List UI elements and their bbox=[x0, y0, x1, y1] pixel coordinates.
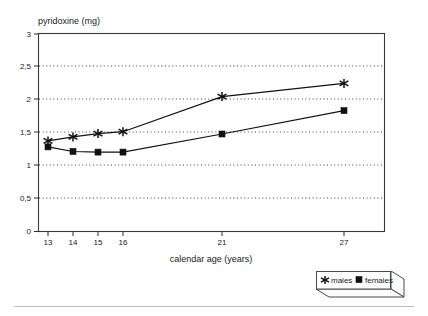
series-males bbox=[44, 79, 349, 145]
footer-divider bbox=[14, 306, 414, 307]
legend-label-females: females bbox=[365, 276, 393, 285]
marker-females-16 bbox=[120, 149, 126, 155]
series-females-line bbox=[48, 111, 344, 153]
marker-females-14 bbox=[70, 149, 76, 155]
series-males-line bbox=[48, 83, 344, 140]
chart-figure: pyridoxine (mg) 3 2,5 2 1,5 1 bbox=[0, 0, 428, 316]
ytick-label-3: 3 bbox=[27, 30, 32, 39]
ytick-label-1: 1 bbox=[27, 161, 32, 170]
ytick-label-1-5: 1,5 bbox=[20, 128, 32, 137]
legend-marker-females bbox=[356, 277, 362, 283]
pyridoxine-line-chart: pyridoxine (mg) 3 2,5 2 1,5 1 bbox=[0, 0, 428, 316]
marker-females-15 bbox=[95, 149, 101, 155]
ytick-label-2: 2 bbox=[27, 95, 32, 104]
x-axis-ticks bbox=[48, 232, 344, 236]
xtick-label-16: 16 bbox=[119, 238, 128, 247]
xtick-label-27: 27 bbox=[340, 238, 349, 247]
gridlines bbox=[39, 66, 384, 198]
x-axis-tick-labels: 13 14 15 16 21 27 bbox=[44, 238, 349, 247]
y-axis-tick-labels: 3 2,5 2 1,5 1 0,5 0 bbox=[20, 30, 32, 236]
chart-title: pyridoxine (mg) bbox=[38, 16, 100, 26]
x-axis-title: calendar age (years) bbox=[170, 254, 253, 264]
xtick-label-15: 15 bbox=[94, 238, 103, 247]
marker-females-27 bbox=[341, 108, 347, 114]
legend: males females bbox=[316, 271, 404, 297]
ytick-label-0: 0 bbox=[27, 227, 32, 236]
xtick-label-14: 14 bbox=[69, 238, 78, 247]
marker-females-21 bbox=[219, 131, 225, 137]
xtick-label-21: 21 bbox=[218, 238, 227, 247]
series-females bbox=[45, 108, 347, 156]
legend-label-males: males bbox=[331, 276, 352, 285]
ytick-label-0-5: 0,5 bbox=[20, 194, 32, 203]
legend-box-bottom-side bbox=[316, 289, 404, 297]
xtick-label-13: 13 bbox=[44, 238, 53, 247]
plot-frame bbox=[39, 34, 385, 232]
ytick-label-2-5: 2,5 bbox=[20, 62, 32, 71]
